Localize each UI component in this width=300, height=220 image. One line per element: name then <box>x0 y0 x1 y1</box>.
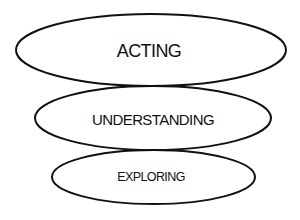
stacked-ellipse-diagram: ACTING UNDERSTANDING EXPLORING <box>0 0 300 220</box>
node-label-understanding: UNDERSTANDING <box>92 112 214 127</box>
node-label-acting: ACTING <box>117 42 181 60</box>
node-label-exploring: EXPLORING <box>117 171 185 184</box>
